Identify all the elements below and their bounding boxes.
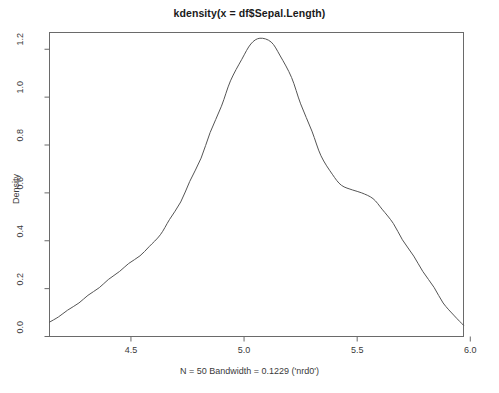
- y-tick-label: 0.2: [15, 273, 25, 303]
- plot-canvas: [0, 0, 499, 393]
- x-axis-label: N = 50 Bandwidth = 0.1229 ('nrd0'): [0, 366, 499, 376]
- y-tick-label: 0.0: [15, 321, 25, 351]
- y-axis-ticks: [45, 49, 50, 336]
- x-tick-label: 4.5: [111, 345, 151, 355]
- plot-frame: [50, 33, 464, 337]
- y-tick-label: 0.8: [15, 129, 25, 159]
- x-tick-label: 6.0: [450, 345, 490, 355]
- x-tick-label: 5.5: [337, 345, 377, 355]
- y-tick-label: 1.2: [15, 33, 25, 63]
- y-axis-label: Density: [11, 159, 21, 219]
- y-tick-label: 0.4: [15, 225, 25, 255]
- density-curve: [50, 38, 464, 325]
- x-tick-label: 5.0: [224, 345, 264, 355]
- x-axis-ticks: [131, 337, 470, 342]
- kernel-density-plot: kdensity(x = df$Sepal.Length) 4.55.05.56…: [0, 0, 499, 393]
- y-tick-label: 1.0: [15, 81, 25, 111]
